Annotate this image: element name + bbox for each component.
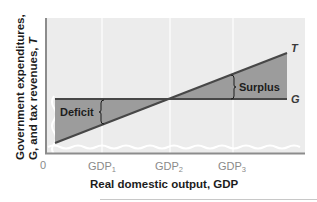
x-tick-gdp1-base: GDP bbox=[88, 160, 112, 172]
g-series-label: G bbox=[291, 93, 300, 105]
x-tick-gdp3-sub: 3 bbox=[242, 165, 246, 174]
x-tick-gdp1: GDP1 bbox=[88, 160, 116, 174]
deficit-label: Deficit bbox=[60, 106, 94, 118]
y-axis-title-line2-var: T bbox=[27, 36, 39, 44]
y-axis-title-line2-text: G, and tax revenues, bbox=[27, 44, 39, 160]
y-axis-title-line2: G, and tax revenues, T bbox=[27, 36, 39, 160]
x-tick-gdp2: GDP2 bbox=[155, 160, 183, 174]
x-tick-gdp3: GDP3 bbox=[218, 160, 246, 174]
origin-label: 0 bbox=[40, 159, 46, 171]
x-tick-gdp2-base: GDP bbox=[155, 160, 179, 172]
x-tick-gdp2-sub: 2 bbox=[179, 165, 183, 174]
surplus-label: Surplus bbox=[239, 81, 280, 93]
y-axis-title-line1: Government expenditures, bbox=[14, 14, 26, 160]
x-tick-gdp1-sub: 1 bbox=[112, 165, 116, 174]
x-axis-title: Real domestic output, GDP bbox=[90, 178, 239, 190]
x-tick-gdp3-base: GDP bbox=[218, 160, 242, 172]
budget-chart: Deficit Surplus T G 0 GDP1 GDP2 GDP3 Rea… bbox=[0, 0, 317, 202]
